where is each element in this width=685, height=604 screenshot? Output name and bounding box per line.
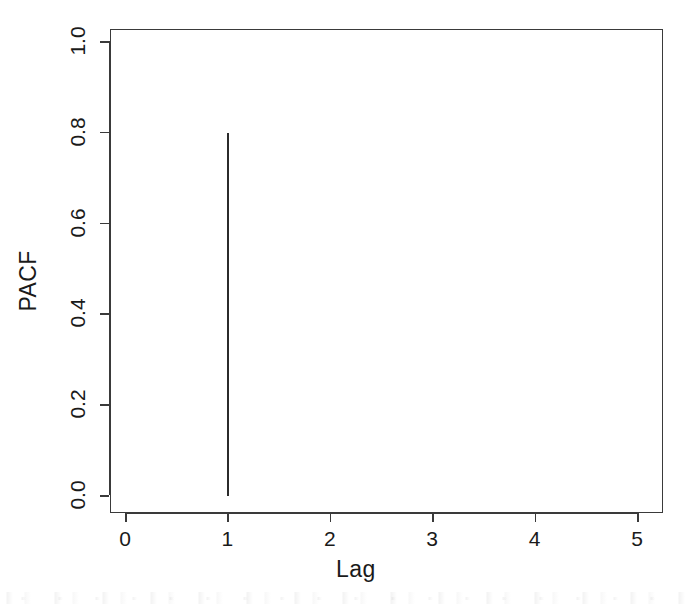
x-tick-mark bbox=[125, 513, 127, 522]
y-tick-mark bbox=[100, 223, 109, 225]
y-tick-label-1-0: 1.0 bbox=[60, 30, 96, 52]
y-axis-title: PACF bbox=[8, 233, 48, 329]
x-axis-title: Lag bbox=[0, 556, 685, 582]
x-tick-label-4: 4 bbox=[515, 527, 555, 551]
scan-noise-band-lower bbox=[10, 597, 670, 600]
y-tick-label-0-8: 0.8 bbox=[60, 121, 96, 143]
y-tick-mark bbox=[100, 132, 109, 134]
y-tick-mark bbox=[100, 41, 109, 43]
x-tick-mark bbox=[330, 513, 332, 522]
y-tick-label-text: 0.2 bbox=[67, 390, 89, 419]
x-tick-mark bbox=[535, 513, 537, 522]
x-tick-mark bbox=[637, 513, 639, 522]
pacf-chart: 1.0 0.8 0.6 0.4 0.2 0.0 0 1 2 3 4 5 PACF… bbox=[0, 0, 685, 604]
y-tick-label-text: 0.4 bbox=[67, 299, 89, 328]
y-tick-mark bbox=[100, 404, 109, 406]
x-tick-label-1: 1 bbox=[207, 527, 247, 551]
y-axis-line bbox=[109, 41, 111, 495]
y-tick-label-text: 0.6 bbox=[67, 208, 89, 237]
pacf-spike-lag-1 bbox=[227, 133, 229, 496]
y-tick-mark bbox=[100, 495, 109, 497]
x-tick-mark bbox=[227, 513, 229, 522]
x-tick-label-5: 5 bbox=[617, 527, 657, 551]
y-tick-label-0-4: 0.4 bbox=[60, 302, 96, 324]
y-tick-label-0-0: 0.0 bbox=[60, 484, 96, 506]
x-tick-label-0: 0 bbox=[105, 527, 145, 551]
x-axis-line bbox=[125, 512, 637, 514]
y-tick-label-text: 0.0 bbox=[67, 480, 89, 509]
x-tick-mark bbox=[432, 513, 434, 522]
y-tick-label-0-6: 0.6 bbox=[60, 212, 96, 234]
y-tick-label-text: 1.0 bbox=[67, 26, 89, 55]
x-tick-label-3: 3 bbox=[412, 527, 452, 551]
y-tick-mark bbox=[100, 313, 109, 315]
x-tick-label-2: 2 bbox=[310, 527, 350, 551]
y-tick-label-0-2: 0.2 bbox=[60, 393, 96, 415]
y-tick-label-text: 0.8 bbox=[67, 117, 89, 146]
plot-area-box bbox=[110, 29, 663, 513]
y-axis-title-text: PACF bbox=[16, 250, 40, 311]
